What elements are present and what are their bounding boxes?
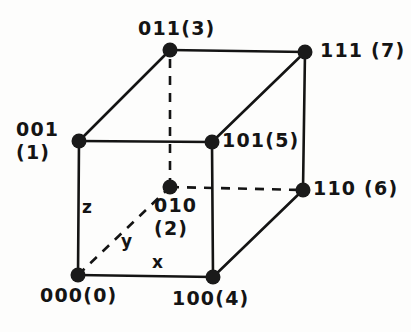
cube-edge — [79, 141, 212, 142]
vertex-label-000: 000(0) — [40, 284, 117, 306]
vertex-label-001: 001(1) — [16, 118, 59, 164]
cube-edge — [303, 52, 305, 190]
vertex-label-line1: 000(0) — [40, 284, 117, 306]
vertex-label-line1: 010 — [154, 194, 197, 217]
vertex-label-011: 011(3) — [138, 17, 215, 39]
cube-edge — [213, 190, 303, 277]
cube-diagram-figure: 000(0)001(1)010(2)011(3)100(4)101(5)110 … — [0, 0, 411, 332]
cube-vertex-011 — [163, 43, 178, 58]
vertex-label-line2: (1) — [16, 141, 59, 164]
vertex-label-line1: 111 (7) — [320, 39, 405, 61]
cube-vertex-010 — [163, 180, 178, 195]
vertex-label-line2: (2) — [154, 217, 197, 240]
vertex-label-line1: 110 (6) — [313, 177, 398, 199]
vertex-label-line1: 001 — [16, 118, 59, 141]
cube-vertex-000 — [71, 268, 86, 283]
edge-layer — [78, 50, 305, 277]
vertex-label-111: 111 (7) — [320, 39, 405, 61]
cube-edge — [79, 50, 170, 141]
cube-vertex-101 — [205, 135, 220, 150]
cube-edge — [212, 142, 213, 277]
axis-y-label: y — [121, 233, 132, 250]
vertex-label-line1: 100(4) — [172, 287, 249, 309]
vertex-label-100: 100(4) — [172, 287, 249, 309]
cube-vertex-001 — [72, 134, 87, 149]
cube-vertex-100 — [206, 270, 221, 285]
cube-edge — [78, 275, 213, 277]
axis-z-label: z — [82, 199, 92, 216]
vertex-label-line1: 011(3) — [138, 17, 215, 39]
vertex-label-010: 010(2) — [154, 194, 197, 240]
vertex-label-line1: 101(5) — [222, 129, 299, 151]
cube-edge — [78, 141, 79, 275]
vertex-label-101: 101(5) — [222, 129, 299, 151]
cube-vertex-111 — [298, 45, 313, 60]
cube-edge — [170, 187, 303, 190]
vertex-label-110: 110 (6) — [313, 177, 398, 199]
cube-vertex-110 — [296, 183, 311, 198]
axis-x-label: x — [152, 254, 163, 271]
cube-edge — [170, 50, 305, 52]
